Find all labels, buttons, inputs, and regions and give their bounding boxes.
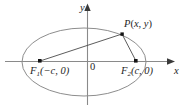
point-p-label: P(x, y) xyxy=(124,19,152,30)
point-p-close-paren: ) xyxy=(149,18,153,29)
focus-1-label: F1(−c, 0) xyxy=(30,66,69,77)
figure-canvas xyxy=(0,0,188,111)
ellipse-figure: y x 0 P(x, y) F1(−c, 0) F2(c, 0) xyxy=(0,0,188,111)
y-axis-arrow-icon xyxy=(84,4,90,12)
x-axis-arrow-icon xyxy=(167,58,175,65)
segment-f1-to-p xyxy=(40,34,122,61)
focus-2-dot xyxy=(134,59,138,63)
focus-1-coords: (−c, 0) xyxy=(40,65,69,76)
y-axis-label: y xyxy=(80,3,85,14)
x-axis-label: x xyxy=(174,66,179,77)
focus-2-label: F2(c, 0) xyxy=(121,66,153,77)
origin-label: 0 xyxy=(90,62,95,73)
focus-1-dot xyxy=(38,59,42,63)
focus-2-coords: (c, 0) xyxy=(131,65,153,76)
point-p-dot xyxy=(120,32,123,35)
